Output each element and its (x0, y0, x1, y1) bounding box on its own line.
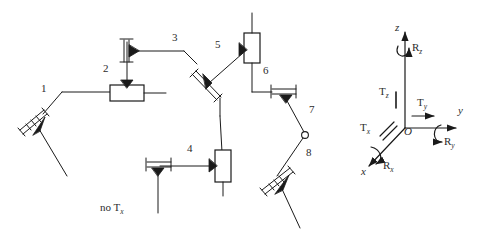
link-5 (209, 53, 243, 83)
ty-subscript: y (424, 102, 427, 111)
translation-label-ty: Ty (417, 97, 427, 111)
prismatic-joint-5 (190, 69, 222, 102)
link-1 (43, 92, 62, 114)
diagram-vector-layer (0, 0, 481, 243)
joint-label-7: 7 (309, 104, 315, 115)
axis-label-y: y (458, 105, 463, 116)
revolute-joint-7 (302, 132, 309, 139)
rx-subscript: x (390, 165, 393, 174)
prismatic-joint-1 (18, 108, 67, 176)
no-tx-note: no Tx (100, 202, 124, 216)
link-5c (220, 116, 222, 152)
rotation-label-rz: Rz (412, 42, 422, 56)
diagram-canvas: 1 2 3 4 5 6 7 8 no Tx z y x O Tz Ty Tx R… (0, 0, 481, 243)
prismatic-joint-3 (120, 39, 139, 85)
translation-label-tz: Tz (379, 86, 389, 100)
box-link-4 (209, 150, 231, 196)
no-tx-prefix: no (100, 201, 111, 213)
tz-symbol: T (379, 85, 386, 97)
origin-label: O (404, 126, 412, 137)
prismatic-joint-6 (252, 85, 296, 103)
rotation-label-ry: Ry (444, 136, 455, 150)
box-link-2 (110, 80, 166, 101)
joint-label-8: 8 (306, 147, 312, 158)
rotation-label-rx: Rx (383, 160, 394, 174)
axis-label-z: z (395, 22, 399, 33)
ty-symbol: T (417, 96, 424, 108)
joint-label-2: 2 (103, 63, 109, 74)
joint-label-6: 6 (263, 65, 269, 76)
no-tx-subscript: x (120, 207, 123, 216)
tx-subscript: x (367, 127, 370, 136)
ry-subscript: y (451, 141, 454, 150)
tz-subscript: z (386, 91, 389, 100)
prismatic-joint-8 (260, 166, 300, 228)
joint-label-5: 5 (215, 39, 221, 50)
box-link-5 (239, 13, 260, 92)
joint-label-4: 4 (187, 143, 193, 154)
joint-label-3: 3 (172, 32, 178, 43)
joint-label-1: 1 (41, 83, 47, 94)
link-7 (286, 99, 304, 132)
axis-label-x: x (361, 166, 366, 177)
link-3b (184, 51, 197, 64)
link-8 (277, 138, 303, 176)
rz-subscript: z (419, 47, 422, 56)
translation-label-tx: Tx (360, 122, 370, 136)
tx-symbol: T (360, 121, 367, 133)
Tx-marker (380, 122, 397, 140)
Rz-marker (397, 46, 409, 56)
